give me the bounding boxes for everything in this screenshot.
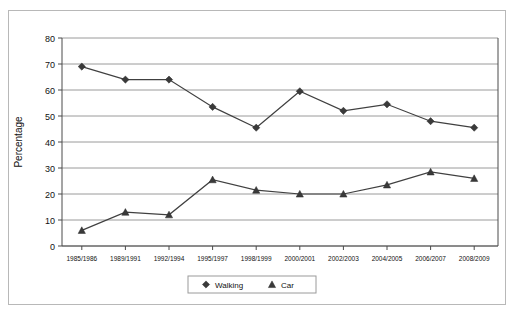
data-point-walking (122, 76, 129, 83)
data-point-walking (471, 124, 478, 131)
y-tick-label: 70 (45, 60, 55, 70)
data-point-car (427, 168, 434, 175)
data-point-car (209, 176, 216, 183)
series-line-car (82, 172, 474, 231)
x-tick-label: 2006/2007 (415, 255, 446, 262)
y-tick-label: 20 (45, 190, 55, 200)
legend-label-car: Car (281, 281, 294, 290)
chart-legend: WalkingCar (188, 276, 316, 293)
chart-container: 01020304050607080 1985/19861989/19911992… (0, 0, 516, 317)
y-axis-title: Percentage (13, 116, 24, 168)
y-tick-labels-group: 01020304050607080 (45, 34, 62, 252)
x-tick-label: 1995/1997 (197, 255, 228, 262)
x-tick-label: 1989/1991 (110, 255, 141, 262)
y-tick-label: 30 (45, 164, 55, 174)
chart-svg: 01020304050607080 1985/19861989/19911992… (0, 0, 516, 317)
x-tick-label: 2004/2005 (372, 255, 403, 262)
data-point-walking (427, 118, 434, 125)
data-point-car (78, 227, 85, 234)
x-tick-label: 1985/1986 (66, 255, 97, 262)
data-point-walking (165, 76, 172, 83)
x-tick-label: 1998/1999 (241, 255, 272, 262)
x-tick-label: 2002/2003 (328, 255, 359, 262)
y-tick-label: 40 (45, 138, 55, 148)
y-tick-label: 50 (45, 112, 55, 122)
data-point-walking (383, 101, 390, 108)
data-point-walking (340, 107, 347, 114)
legend-label-walking: Walking (215, 281, 243, 290)
x-tick-labels-group: 1985/19861989/19911992/19941995/19971998… (66, 246, 490, 262)
y-tick-label: 10 (45, 216, 55, 226)
y-tick-label: 80 (45, 34, 55, 44)
x-tick-label: 2000/2001 (284, 255, 315, 262)
x-tick-label: 1992/1994 (154, 255, 185, 262)
y-tick-label: 0 (50, 242, 55, 252)
data-point-walking (209, 103, 216, 110)
series-line-walking (82, 67, 474, 128)
x-tick-label: 2008/2009 (459, 255, 490, 262)
y-tick-label: 60 (45, 86, 55, 96)
series-group (78, 63, 478, 233)
